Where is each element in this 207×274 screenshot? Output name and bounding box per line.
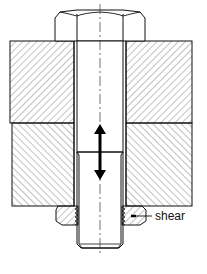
shear-label: shear bbox=[155, 209, 185, 223]
bolted-joint-diagram: shear bbox=[0, 0, 207, 274]
